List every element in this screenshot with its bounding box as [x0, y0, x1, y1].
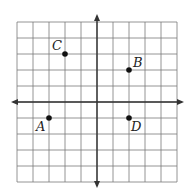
x-axis-right-arrow-icon — [177, 99, 184, 105]
point-b — [126, 67, 132, 73]
point-d-label: D — [130, 119, 142, 134]
point-c-label: C — [52, 38, 62, 53]
point-a — [46, 115, 52, 121]
point-a-label: A — [35, 119, 45, 134]
x-axis-left-arrow-icon — [11, 99, 18, 105]
axes — [11, 14, 184, 188]
point-b-label: B — [132, 55, 143, 70]
point-c — [62, 51, 68, 57]
y-axis-up-arrow-icon — [94, 14, 100, 21]
coordinate-grid: A B C D — [0, 0, 188, 188]
y-axis-down-arrow-icon — [94, 181, 100, 188]
